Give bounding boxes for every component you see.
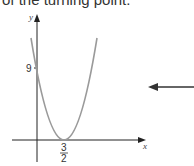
svg-text:3: 3 [61,142,67,153]
y-axis-arrow-icon [34,14,40,22]
parabola-graph: 9 y x 3 2 [0,0,194,166]
vertex-x-label: 3 2 [60,142,68,164]
svg-text:2: 2 [61,153,67,164]
pointer-arrow-icon [148,83,194,91]
x-axis [12,137,146,143]
x-axis-label: x [142,141,147,151]
y-axis-label: y [28,12,33,22]
y-intercept-label: 9 [26,63,32,74]
parabola-curve [31,38,97,140]
